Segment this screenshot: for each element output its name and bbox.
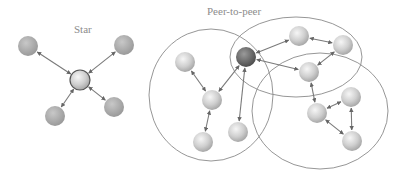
star-node bbox=[45, 106, 65, 126]
star-title: Star bbox=[74, 23, 92, 35]
star-edge bbox=[61, 89, 73, 107]
peer-node bbox=[333, 35, 353, 55]
peer-edge bbox=[351, 108, 352, 130]
star-edge bbox=[89, 52, 116, 73]
peer-node bbox=[299, 62, 319, 82]
peer-edge bbox=[310, 38, 332, 43]
star-node bbox=[18, 36, 38, 56]
peer-node bbox=[202, 90, 222, 110]
star-hub-node bbox=[70, 70, 90, 90]
peer-edge bbox=[219, 66, 239, 92]
peer-node bbox=[341, 87, 361, 107]
star-node bbox=[104, 97, 124, 117]
peer-node bbox=[193, 132, 213, 152]
peer-edge bbox=[239, 68, 245, 121]
peer-edge bbox=[256, 40, 289, 53]
peer-edge bbox=[326, 120, 344, 134]
peer-node bbox=[175, 52, 195, 72]
peer-edge bbox=[257, 60, 299, 70]
star-edge bbox=[37, 52, 71, 74]
peer-edge bbox=[205, 111, 209, 131]
peer-edge bbox=[318, 52, 335, 65]
network-topology-diagram bbox=[0, 0, 406, 179]
star-node bbox=[114, 35, 134, 55]
star-topology bbox=[18, 35, 134, 126]
star-edge bbox=[89, 87, 106, 100]
peer-node bbox=[342, 131, 362, 151]
peer-edge bbox=[191, 71, 205, 91]
peer-node bbox=[228, 122, 248, 142]
peer-node bbox=[289, 26, 309, 46]
peer-node bbox=[236, 47, 256, 67]
peer-node bbox=[307, 103, 327, 123]
peer-edge bbox=[311, 83, 315, 102]
peer-to-peer-topology bbox=[149, 17, 388, 169]
peer-edge bbox=[327, 102, 341, 109]
p2p-title: Peer-to-peer bbox=[207, 5, 261, 17]
